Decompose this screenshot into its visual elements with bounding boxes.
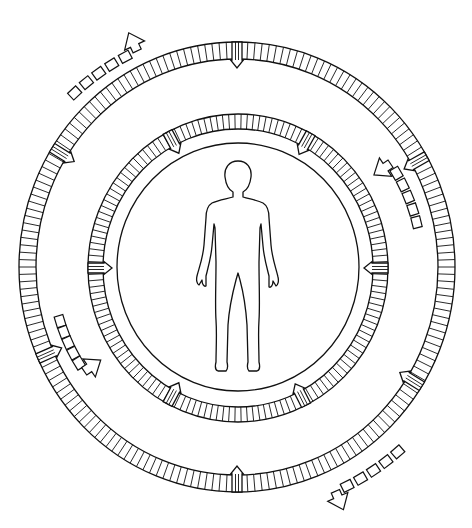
flow-block <box>68 86 82 100</box>
human-figure <box>197 161 279 371</box>
flow-block <box>407 203 419 216</box>
flow-block <box>411 216 422 229</box>
arrow-marker-icon <box>231 466 244 492</box>
inner-ring-marker-2 <box>364 262 388 275</box>
block-arrow-head-icon <box>119 28 147 55</box>
arrow-marker-icon <box>364 262 388 275</box>
outer-ring-marker-3 <box>400 371 425 390</box>
outer-ring-marker-2 <box>404 152 429 171</box>
inner-ring-marker-4 <box>163 383 181 407</box>
flow-block <box>396 178 409 192</box>
flow-block <box>118 50 132 63</box>
flow-block <box>340 479 354 492</box>
arrow-marker-icon <box>163 130 181 154</box>
diagram-stage <box>0 0 472 528</box>
flow-block <box>391 445 405 459</box>
arrow-marker-icon <box>404 152 429 171</box>
flow-arrow-bottom-right <box>325 445 405 514</box>
flow-block <box>402 190 414 204</box>
flow-block <box>105 58 119 71</box>
human-figure-outline <box>197 161 279 371</box>
outer-ring-marker-1 <box>231 42 244 68</box>
outer-ring-marker-4 <box>231 466 244 492</box>
arrow-marker-icon <box>297 131 315 154</box>
arrow-marker-icon <box>163 383 181 407</box>
inner-ring-marker-5 <box>88 262 112 275</box>
inner-ring-marker-0 <box>163 130 181 154</box>
outer-ring-marker-0 <box>49 144 74 163</box>
diagram-canvas <box>0 0 472 528</box>
inner-ring-marker-1 <box>297 131 315 154</box>
flow-block <box>79 76 93 90</box>
flow-block <box>354 472 368 485</box>
flow-block <box>366 464 380 478</box>
arrow-marker-icon <box>88 262 112 275</box>
flow-block <box>92 66 106 80</box>
flow-block <box>379 455 393 469</box>
block-arrow-head-icon <box>325 487 353 514</box>
arrow-marker-icon <box>231 42 244 68</box>
